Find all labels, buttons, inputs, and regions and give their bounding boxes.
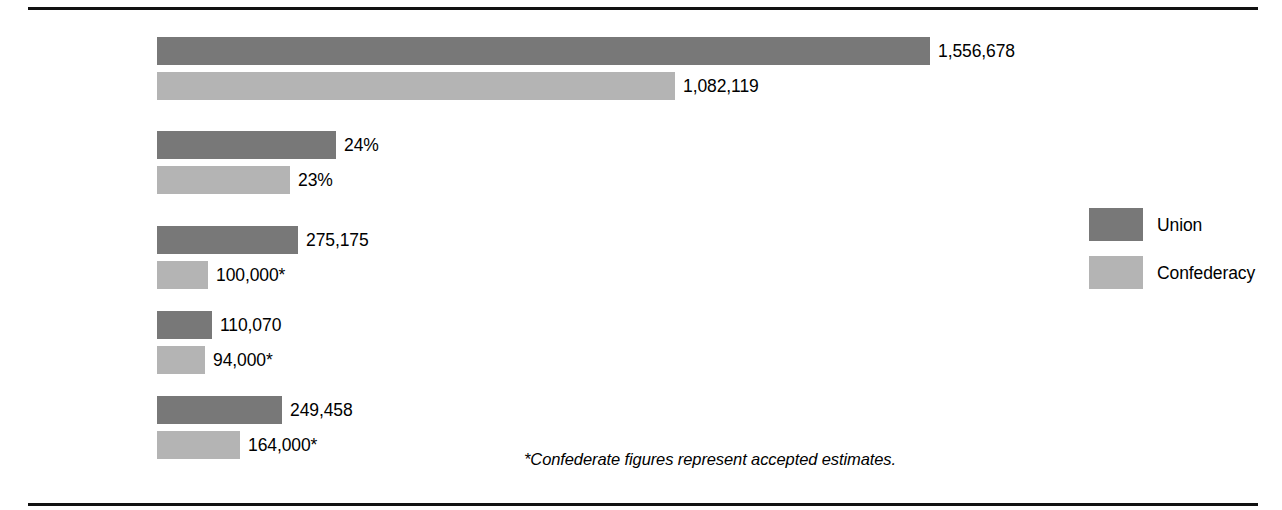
bar-died-from-disease-confederacy (157, 431, 240, 459)
chart-container: Total strength 1,556,678 1,082,119 Death… (0, 0, 1282, 510)
bar-total-strength-union (157, 37, 930, 65)
bar-wounded-nonmortally-union (157, 226, 298, 254)
bar-value-wounded-nonmortally-confederacy: 100,000* (216, 265, 285, 286)
legend-swatch-confederacy (1089, 256, 1143, 289)
bar-value-death-rate-confederacy: 23% (298, 170, 333, 191)
bar-death-rate-confederacy (157, 166, 290, 194)
bar-value-total-strength-confederacy: 1,082,119 (683, 76, 759, 97)
bar-value-died-from-disease-confederacy: 164,000* (248, 435, 317, 456)
plot-area: Total strength 1,556,678 1,082,119 Death… (0, 0, 1282, 510)
bar-died-from-wounds-confederacy (157, 346, 205, 374)
bar-death-rate-union (157, 131, 336, 159)
bar-value-died-from-wounds-confederacy: 94,000* (213, 350, 273, 371)
legend-label-union: Union (1157, 215, 1202, 236)
bottom-divider-rule (28, 503, 1258, 506)
bar-value-death-rate-union: 24% (344, 135, 379, 156)
bar-wounded-nonmortally-confederacy (157, 261, 208, 289)
bar-died-from-disease-union (157, 396, 282, 424)
bar-total-strength-confederacy (157, 72, 675, 100)
chart-footnote: *Confederate figures represent accepted … (524, 450, 896, 469)
legend-label-confederacy: Confederacy (1157, 263, 1255, 284)
bar-value-died-from-wounds-union: 110,070 (220, 315, 281, 336)
bar-value-wounded-nonmortally-union: 275,175 (306, 230, 369, 251)
bar-died-from-wounds-union (157, 311, 212, 339)
bar-value-total-strength-union: 1,556,678 (938, 41, 1015, 62)
legend-swatch-union (1089, 208, 1143, 241)
bar-value-died-from-disease-union: 249,458 (290, 400, 353, 421)
